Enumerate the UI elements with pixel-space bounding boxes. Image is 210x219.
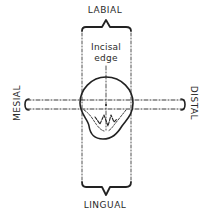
distal-bracket — [181, 99, 185, 110]
lingual-label: LINGUAL — [0, 200, 210, 210]
diagram-graphic — [0, 0, 210, 219]
incisal-label-line2: edge — [85, 53, 127, 64]
incisal-edge-label: Incisal edge — [85, 42, 127, 64]
lingual-brace — [82, 182, 131, 195]
mesial-bracket — [25, 99, 29, 110]
labial-brace — [82, 20, 131, 31]
distal-label: DISTAL — [189, 78, 199, 128]
tooth-outline — [80, 77, 133, 139]
labial-label: LABIAL — [0, 5, 210, 15]
mesial-label: MESIAL — [12, 78, 22, 128]
tooth-orientation-diagram: LABIAL LINGUAL Incisal edge MESIAL DISTA… — [0, 0, 210, 219]
cingulum-outline — [84, 110, 126, 131]
center-point — [105, 104, 107, 106]
incisal-label-line1: Incisal — [85, 42, 127, 53]
